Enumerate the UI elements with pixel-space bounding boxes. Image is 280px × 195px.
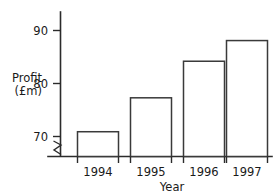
y-axis-title-line2: (£m)	[15, 84, 43, 98]
x-label-1995: 1995	[136, 165, 165, 179]
bar-1997	[227, 41, 268, 157]
y-tick-label-90: 90	[33, 24, 48, 38]
bar-chart: 90 80 70 Profit (£m) 1994 1995 1996 1997…	[0, 0, 280, 195]
bar-1994	[78, 132, 119, 157]
x-label-1996: 1996	[189, 165, 218, 179]
y-tick-label-70: 70	[33, 130, 48, 144]
y-axis-title-line1: Profit	[12, 71, 42, 85]
chart-canvas: 90 80 70 Profit (£m) 1994 1995 1996 1997…	[0, 0, 280, 195]
x-label-1997: 1997	[232, 165, 261, 179]
bar-1995	[131, 98, 172, 157]
x-label-1994: 1994	[83, 165, 112, 179]
x-axis-title: Year	[159, 180, 185, 194]
bar-1996	[184, 61, 225, 156]
